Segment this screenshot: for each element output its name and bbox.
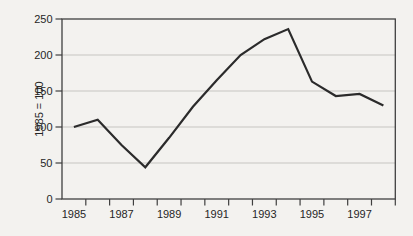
- data-series: [74, 29, 384, 167]
- x-axis-tick-label: 1989: [157, 208, 181, 220]
- y-axis-tick-label: 200: [34, 49, 52, 61]
- line-chart: 0501001502002501985198719891991199319951…: [0, 0, 413, 236]
- y-axis-tick-label: 250: [34, 13, 52, 25]
- x-axis-tick-label: 1985: [62, 208, 86, 220]
- y-axis-tick-label: 50: [40, 157, 52, 169]
- x-axis-tick-label: 1987: [109, 208, 133, 220]
- y-axis-title: 1985 = 100: [33, 81, 45, 136]
- axis-labels: 0501001502002501985198719891991199319951…: [34, 13, 372, 220]
- gridlines: [62, 55, 395, 163]
- chart-canvas: 0501001502002501985198719891991199319951…: [0, 0, 413, 236]
- x-axis-tick-label: 1995: [300, 208, 324, 220]
- x-axis-tick-label: 1991: [205, 208, 229, 220]
- plot-frame: [62, 19, 395, 199]
- axis-ticks: [56, 19, 396, 206]
- plot-border: [62, 19, 395, 199]
- x-axis-tick-label: 1993: [252, 208, 276, 220]
- x-axis-tick-label: 1997: [347, 208, 371, 220]
- data-line: [74, 29, 384, 167]
- y-axis-tick-label: 0: [46, 193, 52, 205]
